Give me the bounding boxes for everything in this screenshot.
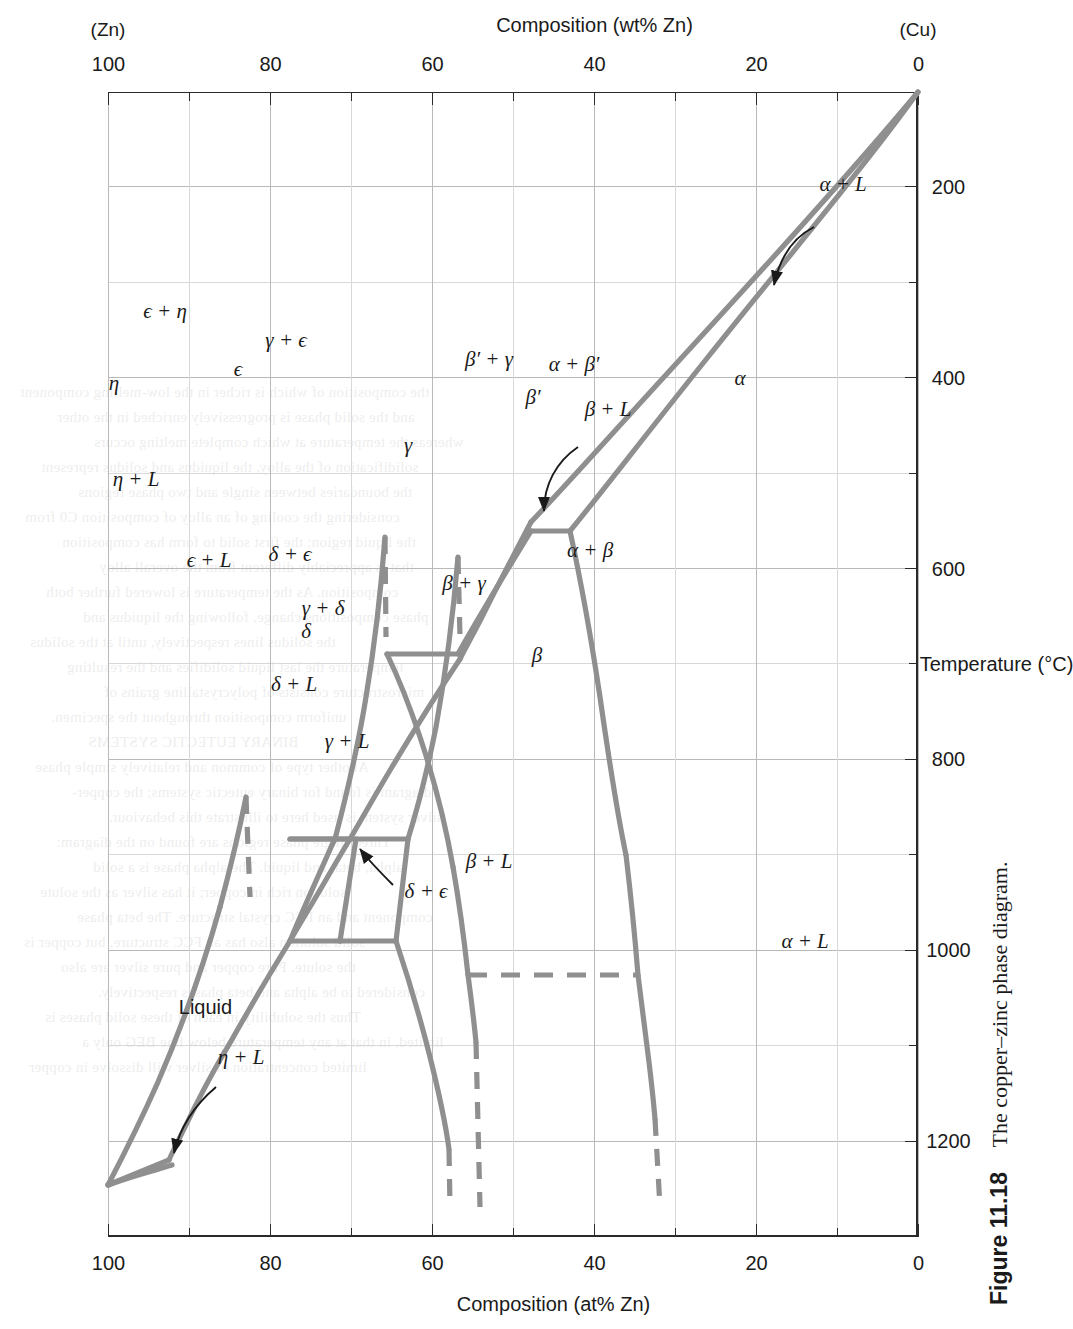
figure-caption-text: The copper–zinc phase diagram. [987,862,1012,1148]
at-percent-tick-label-100: 100 [91,1252,124,1275]
phase-label-delta: δ [302,619,312,643]
phase-label-beta-plus-L: β + L [465,848,512,872]
dashed-epsilon-gamma [458,557,460,637]
alpha-solvus [570,531,626,855]
dashed-alpha-solvus [655,1119,660,1207]
phase-label-delta-plus-epsilon: δ + ϵ [269,543,312,567]
temperature-axis-title: Temperature (°C) [919,653,1073,676]
liquidus-delta [224,941,290,1053]
wt-percent-tick-label-80: 80 [259,53,281,76]
at-percent-axis-title: Composition (at% Zn) [457,1293,650,1316]
phase-label-gamma-plus-delta: γ + δ [301,595,344,619]
annotation-alpha-plus-L-arrow: α + L [819,173,866,197]
phase-diagram-plot: Liquidα + Lβ + Lγ + Lδ + Lϵ + Lη + Lηϵ +… [108,92,918,1237]
phase-label-alpha: α [734,366,745,390]
dashed-epsilon-left [385,537,386,637]
phase-label-epsilon-plus-eta: ϵ + η [143,300,187,324]
gamma-left-solvus-2 [453,867,468,975]
phase-label-delta-plus-L: δ + L [271,671,317,695]
temp-tick-label-200: 200 [931,176,964,199]
arrow-eta-plus-L [174,1087,216,1153]
temp-tick-label-1000: 1000 [926,940,971,963]
at-percent-tick-label-0: 0 [912,1252,923,1275]
arrow-delta-plus-epsilon [360,849,393,885]
annotation-beta-plus-L-arrow: β + L [585,397,632,421]
phase-label-eta-plus-L: η + L [113,466,160,490]
dashed-beta-gamma-solvus [476,1042,480,1207]
liquidus-alpha [570,92,918,531]
at-percent-tick-label-80: 80 [259,1252,281,1275]
phase-label-gamma-plus-L: γ + L [325,729,370,753]
wt-percent-tick-label-40: 40 [583,53,605,76]
phase-label-alpha-plus-L: α + L [781,929,828,953]
phase-label-beta-plus-gamma: β + γ [443,571,486,595]
zn-end-label: (Zn) [91,19,126,41]
solidus-alpha [531,92,918,522]
phase-label-alpha-plus-beta: α + β [567,538,613,562]
comp-left-tick-0 [918,1224,919,1237]
cu-end-label: (Cu) [900,19,937,41]
wt-percent-tick-label-0: 0 [912,53,923,76]
dashed-gamma-beta-boundary [449,1149,450,1207]
wt-percent-tick-label-20: 20 [745,53,767,76]
eta-solvus-2 [220,797,246,907]
phase-label-epsilon: ϵ [233,356,241,380]
phase-label-beta: β [532,643,542,667]
phase-label-beta-prime-plus-gamma: β′ + γ [465,347,513,371]
phase-label-epsilon-plus-L: ϵ + L [187,548,232,572]
phase-label-liquid: Liquid [178,996,231,1019]
figure-number: Figure 11.18 [986,1172,1012,1305]
wt-percent-axis-title: Composition (wt% Zn) [496,15,693,38]
temp-tick-label-400: 400 [931,367,964,390]
gamma-beta-boundary [396,941,449,1149]
annotation-delta-plus-epsilon-arrow: δ + ϵ [405,880,448,904]
wt-percent-tick-label-60: 60 [421,53,443,76]
phase-label-alpha-plus-beta-prime: α + β′ [548,352,599,376]
at-percent-tick-label-40: 40 [583,1252,605,1275]
at-percent-tick-label-60: 60 [421,1252,443,1275]
annotation-eta-plus-L-arrow: η + L [218,1045,265,1069]
phase-label-gamma: γ [404,433,412,457]
beta-alpha-solvus [638,975,655,1119]
alpha-solvus-2 [626,855,638,975]
phase-label-beta-prime: β′ [526,385,541,409]
phase-label-gamma-plus-epsilon: γ + ϵ [266,328,307,352]
temp-tick-label-1200: 1200 [926,1130,971,1153]
temp-tick-label-600: 600 [931,557,964,580]
dashed-eta-solvus [246,797,250,897]
wt-percent-tick-label-100: 100 [91,53,124,76]
eta-epsilon-solvus [108,907,220,1185]
temp-tick-label-800: 800 [931,748,964,771]
at-percent-tick-label-20: 20 [745,1252,767,1275]
delta-upper [290,839,335,941]
phase-label-eta: η [109,371,119,395]
beta-gamma-solvus [468,975,476,1042]
figure-caption: Figure 11.18 The copper–zinc phase diagr… [986,862,1013,1305]
